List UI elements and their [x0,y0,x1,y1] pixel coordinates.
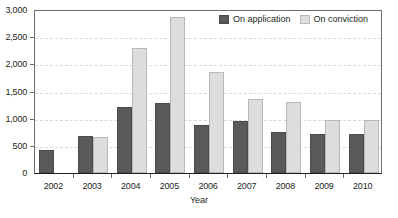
y-tick-mark [30,92,34,93]
bar-on-conviction-2006 [209,72,224,173]
y-tick-label: 2,000 [5,60,27,69]
bar-on-application-2006 [194,125,209,173]
bar-on-application-2009 [310,134,325,173]
bar-group [74,11,113,173]
y-tick-label: 3,000 [5,6,27,15]
legend-item-on-application: On application [219,15,291,24]
bar-on-application-2008 [271,132,286,173]
x-tick-label: 2009 [314,181,333,191]
y-axis: 05001,0001,5002,0002,5003,000 [0,0,34,184]
bar-group [228,11,267,173]
bar-group [306,11,345,173]
x-tick-mark [266,174,267,178]
x-tick-mark [305,174,306,178]
y-tick-mark [30,37,34,38]
y-tick-label: 0 [22,169,27,178]
bar-group [267,11,306,173]
bar-on-application-2002 [39,150,54,173]
bar-on-application-2007 [233,121,248,173]
bar-on-conviction-2003 [93,137,108,173]
bar-chart: 05001,0001,5002,0002,5003,000 2002200320… [0,0,398,218]
bar-group [35,11,74,173]
y-tick-label: 2,500 [5,33,27,42]
x-tick-label: 2004 [121,181,140,191]
bar-group [190,11,229,173]
y-tick-mark [30,64,34,65]
y-tick-label: 500 [13,141,27,150]
x-tick-label: 2006 [198,181,217,191]
legend-label-on-application: On application [233,15,291,24]
bar-on-application-2010 [349,134,364,173]
y-tick-mark [30,146,34,147]
x-tick-mark [227,174,228,178]
bar-group [112,11,151,173]
y-tick-label: 1,500 [5,87,27,96]
y-tick-label: 1,000 [5,114,27,123]
legend-swatch-icon-on-conviction [300,15,310,24]
x-tick-mark [189,174,190,178]
bar-on-conviction-2009 [325,120,340,173]
legend-item-on-conviction: On conviction [300,15,369,24]
legend-label-on-conviction: On conviction [314,15,369,24]
y-tick-mark [30,119,34,120]
x-tick-mark [343,174,344,178]
bar-group [151,11,190,173]
x-tick-label: 2007 [237,181,256,191]
x-tick-label: 2008 [276,181,295,191]
x-tick-label: 2010 [353,181,372,191]
plot-area [34,10,382,174]
bar-on-conviction-2007 [248,99,263,173]
x-axis-title: Year [0,195,398,205]
x-tick-mark [73,174,74,178]
bar-on-application-2003 [78,136,93,173]
chart-legend: On application On conviction [219,15,368,24]
bar-on-conviction-2010 [364,120,379,173]
bar-on-conviction-2005 [170,17,185,173]
bar-on-application-2005 [155,103,170,173]
x-tick-mark [150,174,151,178]
x-tick-label: 2005 [160,181,179,191]
bar-on-application-2004 [117,107,132,173]
bar-group [344,11,383,173]
bar-on-conviction-2008 [286,102,301,173]
x-tick-label: 2003 [82,181,101,191]
bar-on-conviction-2004 [132,48,147,173]
legend-swatch-icon-on-application [219,15,229,24]
x-tick-mark [111,174,112,178]
x-tick-label: 2002 [44,181,63,191]
bars-layer [35,11,381,173]
